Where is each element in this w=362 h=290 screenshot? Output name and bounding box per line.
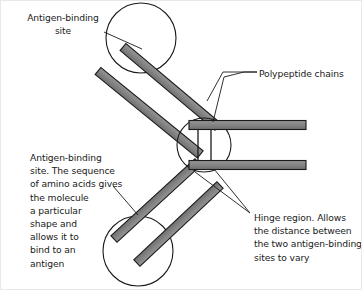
label-hinge-region: Hinge region. Allows the distance betwee… [254, 211, 362, 264]
upper-arm-inner-chain-bar [95, 68, 203, 158]
right-lower-chain-bar [189, 161, 306, 170]
label-antigen-binding-site-detail: Antigen-binding site. The sequence of am… [30, 151, 134, 270]
label-antigen-binding-site-top: Antigen-binding site [15, 11, 111, 37]
right-upper-chain-bar [189, 121, 306, 130]
leader-line-polypeptide-lower [213, 72, 257, 122]
antibody-diagram: Antigen-binding site Polypeptide chains … [0, 0, 362, 290]
lower-arm-inner-chain-bar [134, 182, 223, 267]
leader-line-polypeptide-upper [207, 72, 257, 101]
label-polypeptide-chains: Polypeptide chains [259, 67, 361, 80]
